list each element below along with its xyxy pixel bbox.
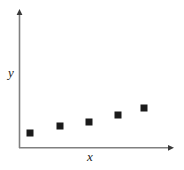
data-point-group — [27, 105, 148, 137]
scatter-plot-figure: y x — [0, 0, 184, 170]
data-point-marker — [57, 123, 64, 130]
data-point-marker — [86, 119, 93, 126]
y-axis-label: y — [8, 66, 14, 79]
x-axis-arrowhead-icon — [168, 145, 174, 151]
data-point-marker — [141, 105, 148, 112]
data-point-marker — [27, 130, 34, 137]
y-axis-arrowhead-icon — [17, 9, 23, 15]
data-point-marker — [115, 112, 122, 119]
plot-canvas — [0, 0, 184, 170]
x-axis-label: x — [87, 150, 93, 163]
